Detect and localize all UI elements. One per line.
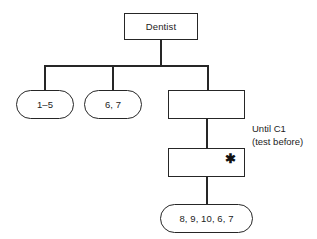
connector-task-b-to-leaf xyxy=(206,176,208,205)
hta-diagram: Dentist 1–5 6, 7 ✱ 8, 9, 10, 6, 7 Until … xyxy=(0,0,317,239)
connector-task-a-to-task-b xyxy=(206,118,208,149)
node-6-7-label: 6, 7 xyxy=(105,100,121,110)
node-1-5-label: 1–5 xyxy=(37,100,53,110)
connector-drop-to-6-7 xyxy=(112,65,114,91)
node-task-a[interactable] xyxy=(168,90,245,119)
node-task-b[interactable]: ✱ xyxy=(168,148,245,177)
node-leaf-list-label: 8, 9, 10, 6, 7 xyxy=(179,214,233,224)
node-dentist[interactable]: Dentist xyxy=(124,13,198,40)
asterisk-icon: ✱ xyxy=(225,152,236,165)
connector-branch-bar xyxy=(44,65,209,67)
annotation-line-2: (test before) xyxy=(252,135,303,148)
annotation-line-1: Until C1 xyxy=(252,122,303,135)
node-6-7[interactable]: 6, 7 xyxy=(84,90,142,119)
node-leaf-list[interactable]: 8, 9, 10, 6, 7 xyxy=(160,204,253,233)
annotation-until-c1: Until C1 (test before) xyxy=(252,122,303,148)
connector-drop-to-1-5 xyxy=(44,65,46,91)
connector-root-stem xyxy=(160,40,162,66)
node-1-5[interactable]: 1–5 xyxy=(16,90,74,119)
node-dentist-label: Dentist xyxy=(146,22,176,32)
connector-drop-to-task-a xyxy=(207,65,209,91)
